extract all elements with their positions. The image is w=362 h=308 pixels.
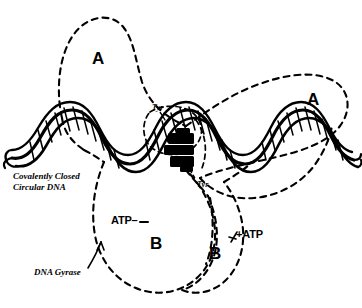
arrow-pointer-icon	[88, 242, 104, 268]
tyr-label-lower: Tyr	[197, 181, 208, 189]
dna-caption-line1: Covalently Closed	[13, 171, 80, 181]
dna-gyrase-figure: A A B B ATP– +ATP Tyr Tyr Covalently Clo…	[0, 0, 362, 308]
figure-canvas	[0, 0, 362, 308]
subunit-label-b-right: B	[209, 245, 221, 263]
subunit-label-a-right: A	[307, 91, 319, 109]
subunit-label-a-left: A	[92, 50, 104, 68]
subunit-label-b-left: B	[150, 235, 162, 253]
tyr-label-upper: Tyr	[152, 104, 163, 112]
dna-caption-line2: Circular DNA	[13, 182, 66, 192]
dna-gyrase-caption: DNA Gyrase	[34, 268, 81, 277]
atp-label-right: +ATP	[236, 229, 263, 241]
atp-label-left: ATP–	[111, 215, 138, 227]
black-catalytic-core-icon	[164, 128, 194, 172]
